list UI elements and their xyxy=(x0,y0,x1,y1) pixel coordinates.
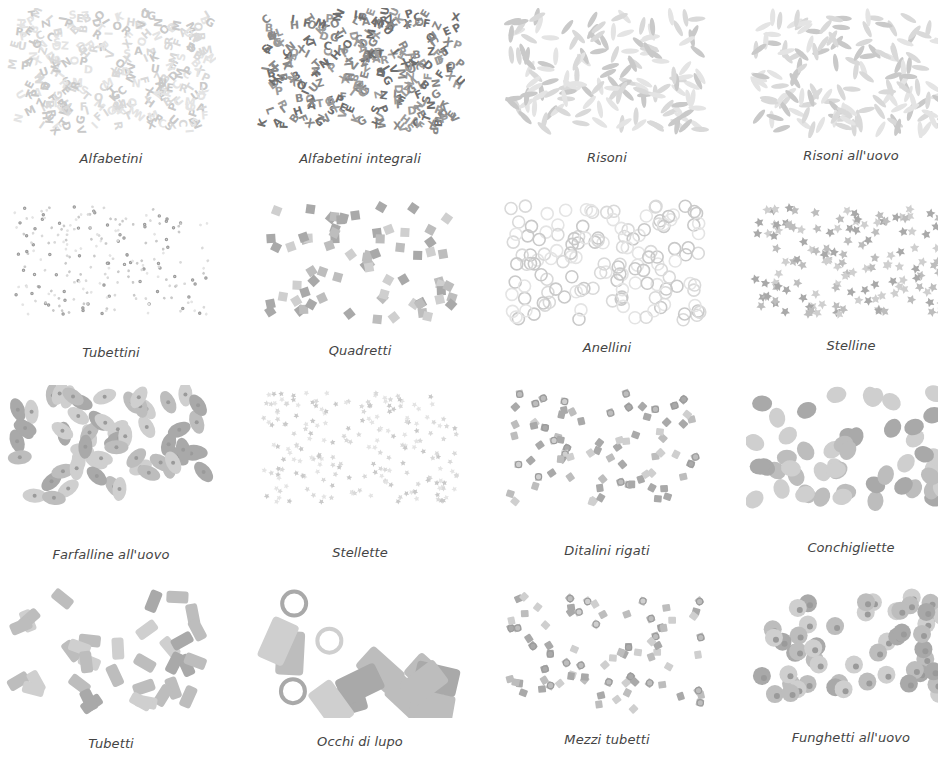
pasta-label: Mezzi tubetti xyxy=(502,732,712,747)
pasta-label: Funghetti all'uovo xyxy=(746,730,938,745)
svg-text:I: I xyxy=(70,26,83,31)
pasta-label: Alfabetini integrali xyxy=(255,151,465,166)
pasta-image xyxy=(746,198,938,323)
svg-text:M: M xyxy=(373,17,385,31)
pasta-label: Tubetti xyxy=(6,736,216,751)
pasta-image xyxy=(6,588,216,718)
svg-text:R: R xyxy=(111,121,125,132)
svg-text:M: M xyxy=(6,58,20,71)
pasta-label: Stelline xyxy=(746,338,938,353)
svg-text:B: B xyxy=(194,32,208,42)
svg-text:Z: Z xyxy=(81,9,90,23)
svg-text:N: N xyxy=(11,112,26,124)
svg-text:K: K xyxy=(304,99,317,108)
svg-text:M: M xyxy=(170,19,185,32)
pasta-image: RNVRAOSBHMMKZMZZPBEBMXHCMEBPVRDBBBFTNIZX… xyxy=(6,8,216,138)
pasta-image xyxy=(502,8,712,138)
pasta-label: Risoni all'uovo xyxy=(746,148,938,163)
svg-text:X: X xyxy=(450,10,461,24)
svg-text:D: D xyxy=(83,63,93,77)
svg-text:D: D xyxy=(392,84,405,93)
pasta-image xyxy=(6,385,216,510)
svg-text:H: H xyxy=(125,15,136,29)
svg-text:A: A xyxy=(134,45,143,58)
pasta-image xyxy=(746,385,938,515)
svg-text:D: D xyxy=(121,65,131,78)
svg-text:Z: Z xyxy=(379,89,389,103)
svg-text:F: F xyxy=(395,98,403,111)
svg-text:Z: Z xyxy=(61,39,70,52)
pasta-label: Risoni xyxy=(502,150,712,165)
svg-text:H: H xyxy=(343,72,357,83)
svg-text:L: L xyxy=(263,105,278,116)
pasta-image: LLADPCNHVNFIMONTDVFBGLZEXPBFPBEZOUKGUOZS… xyxy=(255,8,465,138)
pasta-label: Farfalline all'uovo xyxy=(6,547,216,562)
svg-text:O: O xyxy=(67,55,81,65)
svg-text:N: N xyxy=(330,12,344,22)
svg-text:V: V xyxy=(73,124,88,137)
pasta-image xyxy=(746,8,938,138)
pasta-image xyxy=(502,385,712,510)
svg-text:S: S xyxy=(68,9,77,23)
svg-text:G: G xyxy=(52,90,65,99)
svg-text:I: I xyxy=(182,129,195,134)
pasta-label: Conchigliette xyxy=(746,540,938,555)
pasta-label: Occhi di lupo xyxy=(255,734,465,749)
pasta-label: Anellini xyxy=(502,340,712,355)
pasta-image xyxy=(255,198,465,328)
svg-text:M: M xyxy=(373,116,388,130)
svg-text:I: I xyxy=(84,104,91,118)
svg-text:D: D xyxy=(38,81,52,91)
svg-text:H: H xyxy=(289,19,299,33)
pasta-label: Quadretti xyxy=(255,343,465,358)
pasta-label: Ditalini rigati xyxy=(502,543,712,558)
pasta-image xyxy=(6,198,216,323)
pasta-image xyxy=(502,198,712,328)
pasta-image xyxy=(502,588,712,718)
pasta-image xyxy=(746,588,938,713)
svg-text:N: N xyxy=(152,18,166,28)
pasta-label: Stellette xyxy=(255,545,465,560)
svg-text:S: S xyxy=(175,52,189,62)
pasta-image xyxy=(255,588,465,718)
svg-text:E: E xyxy=(165,81,174,95)
svg-text:E: E xyxy=(445,62,454,76)
svg-text:K: K xyxy=(255,117,270,129)
svg-text:F: F xyxy=(201,109,210,123)
svg-text:P: P xyxy=(440,112,449,126)
pasta-label: Alfabetini xyxy=(6,151,216,166)
svg-text:U: U xyxy=(184,99,195,113)
pasta-image xyxy=(255,385,465,510)
svg-text:B: B xyxy=(265,22,274,35)
pasta-label: Tubettini xyxy=(6,345,216,360)
svg-text:F: F xyxy=(404,52,418,61)
